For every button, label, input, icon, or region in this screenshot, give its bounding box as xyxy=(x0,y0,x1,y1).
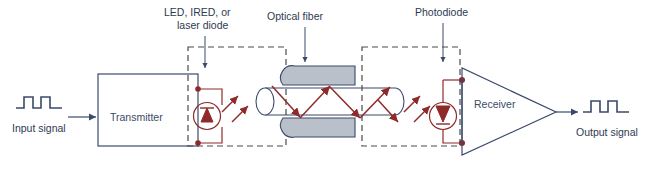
label-led-line2: laser diode xyxy=(177,19,229,31)
coupling-box-right xyxy=(362,47,460,146)
detector-ray-1 xyxy=(404,96,420,112)
output-signal-caption: Output signal xyxy=(576,126,638,138)
photodiode-symbol xyxy=(430,103,457,130)
fiber-optic-system-diagram: LED, IRED, or laser diode Optical fiber … xyxy=(0,0,650,172)
led-ray-2 xyxy=(232,106,248,122)
fiber-cladding-bottom xyxy=(281,118,355,137)
diagram-canvas: LED, IRED, or laser diode Optical fiber … xyxy=(0,0,650,172)
led-ray-1 xyxy=(222,96,238,112)
transmitter-label: Transmitter xyxy=(110,111,163,123)
fiber-ray-2 xyxy=(300,86,330,118)
led-circuit xyxy=(194,86,249,146)
terminal-node-bottom xyxy=(195,140,201,146)
input-signal-waveform xyxy=(16,97,62,108)
fiber-ray-4 xyxy=(360,87,390,118)
terminal-node-top xyxy=(195,86,201,92)
label-optical-fiber-group: Optical fiber xyxy=(267,10,324,62)
optical-fiber xyxy=(256,66,404,138)
label-photodiode: Photodiode xyxy=(415,6,468,18)
transmitter-block: Transmitter xyxy=(98,74,198,146)
receiver-amplifier: Receiver xyxy=(462,68,556,155)
fiber-ray-3 xyxy=(330,87,360,118)
input-signal-caption: Input signal xyxy=(12,122,66,134)
label-optical-fiber: Optical fiber xyxy=(267,10,324,22)
fiber-cladding-top xyxy=(281,66,355,85)
detector-ray-2 xyxy=(414,106,430,122)
fiber-right-cap xyxy=(395,88,404,115)
fiber-left-cap xyxy=(256,88,274,115)
receiver-label: Receiver xyxy=(474,98,516,110)
output-signal-waveform xyxy=(583,101,629,112)
fiber-ray-5 xyxy=(378,100,398,122)
label-led-line1: LED, IRED, or xyxy=(164,6,231,18)
label-led-group: LED, IRED, or laser diode xyxy=(164,6,231,68)
